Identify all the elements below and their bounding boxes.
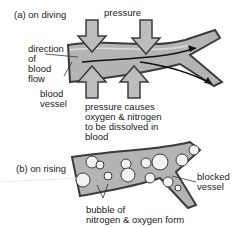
pressure-label: pressure bbox=[104, 8, 141, 18]
panel-b-title: (b) on rising bbox=[16, 164, 66, 174]
blocked-label: blocked vessel bbox=[197, 172, 230, 192]
direction-label: direction of blood flow bbox=[28, 44, 64, 84]
bubble-label: bubble of nitrogen & oxygen form bbox=[86, 205, 184, 225]
vessel-b bbox=[72, 142, 200, 208]
vessel-label: blood vessel bbox=[40, 89, 67, 109]
panel-a-title: (a) on diving bbox=[14, 10, 66, 20]
panel-a-caption: pressure causes oxygen & nitrogen to be … bbox=[85, 102, 162, 142]
